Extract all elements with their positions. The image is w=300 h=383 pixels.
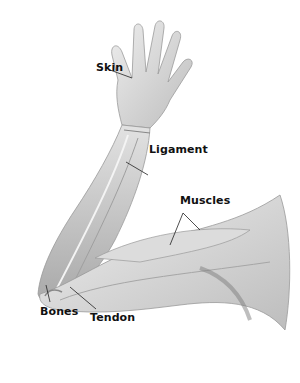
label-ligament: Ligament bbox=[149, 143, 208, 156]
hand bbox=[112, 21, 193, 128]
label-skin: Skin bbox=[96, 61, 123, 74]
label-muscles: Muscles bbox=[180, 194, 230, 207]
label-bones: Bones bbox=[40, 305, 78, 318]
arm-illustration bbox=[0, 0, 300, 383]
label-tendon: Tendon bbox=[90, 311, 135, 324]
arm-anatomy-diagram: Skin Ligament Muscles Bones Tendon bbox=[0, 0, 300, 383]
